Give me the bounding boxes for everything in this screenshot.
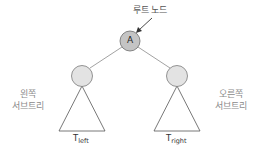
left-subtree-triangle	[59, 86, 105, 131]
tree-diagram	[0, 0, 253, 160]
left-subtree-caption-2: 서브트리	[8, 101, 48, 112]
root-node-caption: 루트 노드	[130, 5, 170, 16]
right-subtree-name-sub: right	[171, 137, 186, 145]
right-subtree-caption-2: 서브트리	[208, 101, 253, 112]
edge-root-left	[90, 47, 122, 68]
root-pointer-arrow	[139, 18, 152, 30]
right-subtree-name: Tright	[166, 133, 186, 145]
left-child-node	[72, 66, 93, 87]
left-subtree-name: Tleft	[73, 133, 89, 145]
root-node-label: A	[124, 35, 136, 46]
left-subtree-caption-1: 왼쪽	[8, 89, 48, 100]
right-child-node	[167, 66, 188, 87]
right-subtree-caption-1: 오른쪽	[208, 89, 253, 100]
right-subtree-triangle	[154, 86, 200, 131]
edge-root-right	[138, 47, 170, 68]
left-subtree-name-sub: left	[78, 137, 89, 145]
